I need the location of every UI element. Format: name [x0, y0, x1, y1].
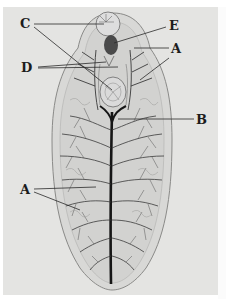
label-e: E — [169, 19, 179, 32]
label-a-top: A — [171, 42, 181, 55]
brain-ganglion — [104, 35, 118, 55]
label-c: C — [20, 17, 30, 30]
label-d: D — [21, 61, 32, 74]
planarian-diagram — [0, 0, 226, 299]
main-gut-trunk — [111, 112, 112, 284]
label-b: B — [196, 113, 207, 126]
label-a-left: A — [20, 183, 30, 196]
